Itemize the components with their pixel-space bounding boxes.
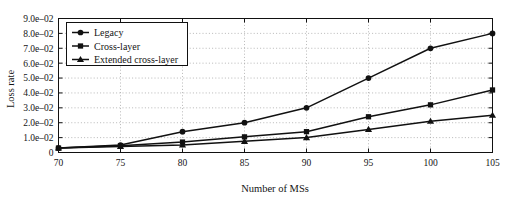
legend-label: Cross-layer: [94, 41, 141, 52]
x-tick-label: 100: [423, 158, 438, 168]
y-tick-label: 3.0e–02: [23, 103, 54, 113]
loss-rate-line-chart: 01.0e–022.0e–023.0e–024.0e–025.0e–026.0e…: [0, 0, 519, 203]
data-point-circle: [428, 45, 434, 51]
data-point-circle: [180, 129, 186, 135]
data-point-square: [490, 87, 495, 92]
x-axis-title: Number of MSs: [241, 183, 309, 194]
x-tick-label: 80: [178, 158, 188, 168]
chart-figure: 01.0e–022.0e–023.0e–024.0e–025.0e–026.0e…: [0, 0, 519, 203]
data-point-circle: [366, 75, 372, 81]
data-point-square: [304, 129, 309, 134]
data-point-square: [78, 43, 83, 48]
x-tick-label: 75: [116, 158, 126, 168]
legend-label: Legacy: [94, 27, 123, 38]
data-point-circle: [490, 31, 496, 37]
y-tick-label: 9.0e–02: [23, 14, 54, 24]
y-tick-label: 8.0e–02: [23, 29, 54, 39]
x-tick-label: 85: [240, 158, 250, 168]
y-tick-label: 4.0e–02: [23, 88, 54, 98]
data-point-circle: [78, 30, 84, 36]
y-tick-label: 6.0e–02: [23, 59, 54, 69]
y-tick-label: 2.0e–02: [23, 118, 54, 128]
x-tick-label: 70: [54, 158, 64, 168]
x-tick-label: 95: [364, 158, 374, 168]
x-tick-label: 90: [302, 158, 312, 168]
data-point-square: [366, 114, 371, 119]
data-point-circle: [304, 105, 310, 111]
x-tick-label: 105: [485, 158, 500, 168]
legend-label: Extended cross-layer: [94, 54, 179, 65]
y-tick-label: 5.0e–02: [23, 73, 54, 83]
y-tick-label: 1.0e–02: [23, 133, 54, 143]
data-point-square: [428, 102, 433, 107]
chart-legend: LegacyCross-layerExtended cross-layer: [67, 23, 188, 66]
y-tick-label: 0: [49, 148, 54, 158]
data-point-circle: [242, 120, 248, 126]
y-tick-label: 7.0e–02: [23, 44, 54, 54]
y-axis-title: Loss rate: [5, 70, 16, 109]
